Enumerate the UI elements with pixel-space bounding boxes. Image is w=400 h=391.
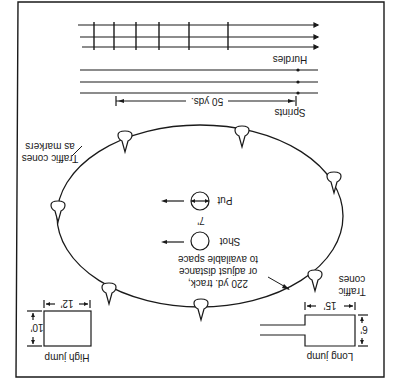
shot-label: Shot bbox=[219, 236, 240, 247]
track-label-line1: 220 yd. track, bbox=[188, 278, 248, 289]
cones-label-line2: cones bbox=[339, 274, 366, 285]
high-jump-label: High jump bbox=[44, 352, 89, 363]
hurdles-lanes bbox=[78, 22, 318, 50]
hurdles-label: Hurdles bbox=[273, 54, 307, 65]
track-label-line3: to available space bbox=[178, 254, 258, 265]
cones-markers-label-line1: Traffic cones bbox=[22, 153, 79, 164]
field-border bbox=[16, 2, 384, 377]
track-label-line2: or adjust distance bbox=[178, 266, 257, 277]
cones-markers-label-line2: as markers bbox=[25, 141, 74, 152]
shot-diameter-label: 7' bbox=[197, 215, 205, 226]
high-jump-depth-label: 10' bbox=[30, 322, 43, 333]
cones-label-line1: Traffic bbox=[338, 286, 365, 297]
sprint-lanes bbox=[80, 68, 318, 94]
high-jump-width-label: 12' bbox=[60, 298, 73, 309]
long-jump-width-label: 15' bbox=[323, 300, 336, 311]
long-jump-label: Long jump bbox=[306, 351, 353, 362]
track-field-layout-diagram: Hurdles 50 yds. Sprints Traffic cones bbox=[0, 0, 400, 391]
long-jump-pit bbox=[260, 302, 368, 346]
sprints-label: Sprints bbox=[274, 107, 305, 118]
sprint-distance-label: 50 yds. bbox=[191, 96, 223, 107]
put-label: Put bbox=[217, 195, 232, 206]
long-jump-depth-label: 6' bbox=[360, 324, 368, 335]
shot-circle bbox=[191, 232, 209, 250]
